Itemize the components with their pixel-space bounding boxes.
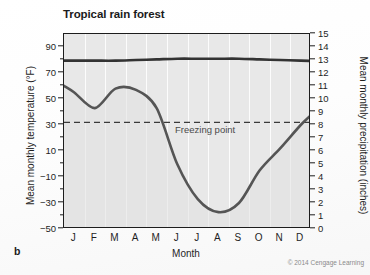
y-axis-right-tickmark	[310, 214, 315, 215]
y-axis-right-tick-label: 11	[318, 80, 328, 91]
x-axis-month-label: J	[194, 232, 199, 243]
y-axis-right-tickmark	[310, 201, 315, 202]
y-axis-left-tick-label: 90	[45, 41, 56, 52]
y-axis-right-title: Mean monthly precipitation (inches)	[358, 41, 369, 231]
y-axis-right-tickmarks	[310, 0, 317, 275]
y-axis-left-tick-label: −10	[40, 171, 56, 182]
y-axis-right-tickmark	[310, 149, 315, 150]
y-axis-right-tick-label: 8	[318, 119, 323, 130]
y-axis-left-tick-label: 10	[45, 145, 56, 156]
y-axis-right-tick-label: 3	[318, 184, 323, 195]
climate-graph-figure: Tropical rain forest Mean monthly temper…	[0, 0, 370, 275]
y-axis-right-tick-label: 1	[318, 210, 323, 221]
y-axis-left-tickmarks	[56, 0, 63, 275]
y-axis-right-tick-label: 5	[318, 158, 323, 169]
y-axis-right-tick-label: 4	[318, 171, 323, 182]
temperature-curve	[64, 59, 310, 61]
x-axis-month-label: M	[110, 232, 118, 243]
x-axis-month-label: M	[151, 232, 159, 243]
y-axis-right-tickmark	[310, 97, 315, 98]
y-axis-right-tickmark	[310, 45, 315, 46]
panel-letter: b	[14, 245, 20, 257]
x-axis-title: Month	[172, 248, 200, 259]
y-axis-right-tick-label: 15	[318, 28, 329, 39]
freezing-point-annotation-label: Freezing point	[175, 124, 235, 135]
y-axis-right-labels: 1514131211109876543210	[318, 0, 344, 275]
chart-title: Tropical rain forest	[63, 8, 165, 20]
y-axis-right-tickmark	[310, 175, 315, 176]
x-axis-month-label: F	[91, 232, 97, 243]
y-axis-left-tick-label: −50	[40, 223, 56, 234]
x-axis-month-label: O	[255, 232, 263, 243]
y-axis-right-tickmark	[310, 188, 315, 189]
x-axis-month-label: N	[276, 232, 283, 243]
x-axis-month-label: J	[71, 232, 76, 243]
y-axis-right-tick-label: 10	[318, 93, 329, 104]
y-axis-right-tickmark	[310, 32, 315, 33]
y-axis-right-tick-label: 2	[318, 197, 323, 208]
y-axis-right-tick-label: 6	[318, 145, 323, 156]
x-axis-month-label: D	[296, 232, 303, 243]
y-axis-left-tick-label: 70	[45, 67, 56, 78]
y-axis-right-tick-label: 7	[318, 132, 323, 143]
y-axis-right-tickmark	[310, 123, 315, 124]
y-axis-left-tick-label: −30	[40, 197, 56, 208]
copyright-credit: © 2014 Cengage Learning	[288, 259, 364, 266]
y-axis-right-tick-label: 0	[318, 223, 323, 234]
x-axis-month-label: A	[132, 232, 139, 243]
y-axis-right-tickmark	[310, 136, 315, 137]
y-axis-right-tick-label: 12	[318, 67, 329, 78]
y-axis-right-tick-label: 14	[318, 41, 329, 52]
y-axis-right-tickmark	[310, 71, 315, 72]
y-axis-right-tick-label: 9	[318, 106, 323, 117]
x-axis-month-label: S	[235, 232, 242, 243]
y-axis-left-labels: 9070503010−10−30−50	[20, 0, 56, 275]
y-axis-left-tick-label: 50	[45, 93, 56, 104]
y-axis-right-tickmark	[310, 110, 315, 111]
y-axis-right-tickmark	[310, 58, 315, 59]
x-axis-month-label: A	[214, 232, 221, 243]
x-axis-month-label: J	[174, 232, 179, 243]
y-axis-right-tickmark	[310, 162, 315, 163]
y-axis-right-tickmark	[310, 84, 315, 85]
y-axis-right-tickmark	[310, 227, 315, 228]
y-axis-left-tick-label: 30	[45, 119, 56, 130]
y-axis-right-tick-label: 13	[318, 54, 329, 65]
